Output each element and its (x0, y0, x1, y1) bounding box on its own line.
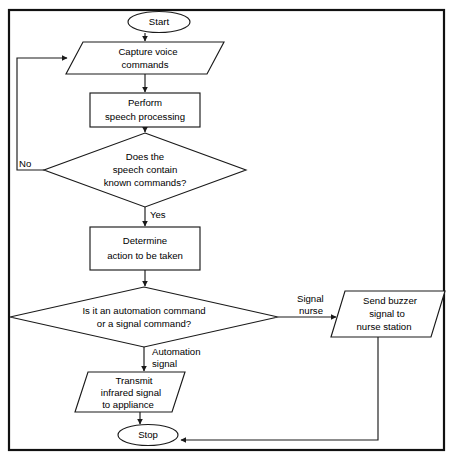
node-send-buzzer[interactable]: Send buzzer signal to nurse station (331, 291, 445, 337)
flowchart-svg: Start Capture voice commands Perform spe… (0, 0, 453, 457)
known-commands-label-line3: known commands? (104, 177, 187, 188)
node-command-kind-decision[interactable]: Is it an automation command or a signal … (10, 287, 278, 347)
edge-label-automation-signal-line1: Automation (152, 346, 201, 357)
page-border (9, 10, 444, 450)
flowchart-canvas: Start Capture voice commands Perform spe… (0, 0, 453, 457)
edge-label-no: No (19, 158, 31, 169)
determine-action-label-line2: action to be taken (107, 250, 183, 261)
send-buzzer-label-line1: Send buzzer (363, 295, 418, 306)
node-transmit-infrared[interactable]: Transmit infrared signal to appliance (75, 372, 185, 412)
capture-voice-label-line2: commands (122, 59, 169, 70)
node-determine-action[interactable]: Determine action to be taken (90, 227, 200, 270)
stop-label: Stop (138, 429, 158, 440)
start-label: Start (149, 16, 170, 27)
command-kind-label-line2: or a signal command? (97, 318, 191, 329)
transmit-infrared-label-line2: infrared signal (101, 387, 161, 398)
known-commands-label-line2: speech contain (113, 164, 178, 175)
speech-processing-label-line1: Perform (128, 97, 162, 108)
edge-buzzer-to-stop (181, 337, 378, 440)
transmit-infrared-label-line1: Transmit (116, 375, 153, 386)
send-buzzer-label-line3: nurse station (357, 321, 412, 332)
edge-decision1-no-loop (17, 58, 67, 170)
command-kind-label-line1: Is it an automation command (82, 305, 205, 316)
send-buzzer-label-line2: signal to (369, 308, 405, 319)
determine-action-box (90, 227, 200, 270)
edge-label-signal-nurse-line1: Signal (297, 293, 324, 304)
capture-voice-label-line1: Capture voice (118, 46, 177, 57)
node-speech-processing[interactable]: Perform speech processing (90, 93, 200, 127)
edge-label-yes: Yes (150, 209, 166, 220)
node-start[interactable]: Start (128, 12, 190, 33)
edge-label-automation-signal-line2: signal (152, 358, 177, 369)
node-stop[interactable]: Stop (118, 425, 178, 446)
speech-processing-label-line2: speech processing (105, 111, 185, 122)
transmit-infrared-label-line3: to appliance (102, 399, 154, 410)
determine-action-label-line1: Determine (123, 235, 167, 246)
node-known-commands-decision[interactable]: Does the speech contain known commands? (44, 133, 246, 207)
node-capture-voice-commands[interactable]: Capture voice commands (66, 42, 224, 74)
edge-label-signal-nurse-line2: nurse (299, 305, 323, 316)
known-commands-label-line1: Does the (126, 151, 164, 162)
